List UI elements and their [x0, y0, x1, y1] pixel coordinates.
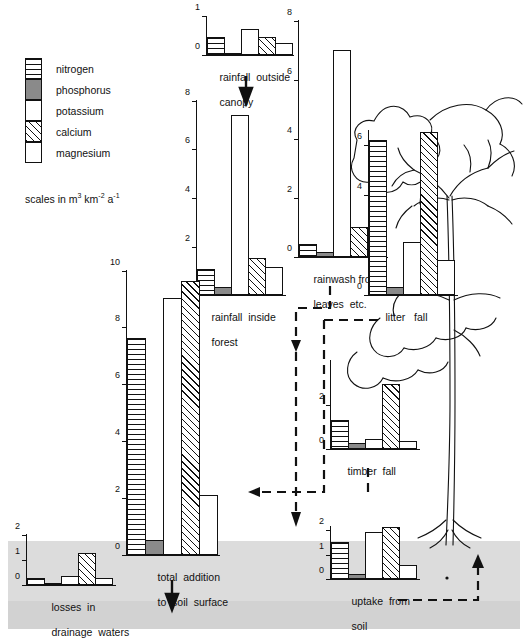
- tick-0: [326, 579, 330, 580]
- ticklabel-4: 4: [357, 181, 362, 191]
- chart-timber-fall: 0 2 timber fall: [330, 358, 422, 450]
- bar-potassium: [61, 576, 79, 585]
- chart-total-addition-to-soil-surface: 0 2 4 6 8 10 total addition to soil surf…: [126, 268, 222, 556]
- bar-calcium: [382, 527, 400, 579]
- bar-magnesium: [399, 441, 417, 449]
- bar-phosphorus: [44, 583, 62, 585]
- bar-calcium: [382, 384, 400, 449]
- tick-6: [122, 384, 126, 385]
- bar-magnesium: [437, 260, 455, 295]
- bar-group: [197, 99, 282, 295]
- bar-magnesium: [265, 267, 283, 295]
- tick-6: [364, 145, 368, 146]
- caption-line-1: losses in: [52, 601, 96, 613]
- chart-caption: timber fall: [330, 452, 396, 490]
- caption-line-2: to soil surface: [158, 596, 229, 608]
- bar-nitrogen: [331, 542, 349, 579]
- plot-area: 0 1 2: [330, 526, 420, 580]
- ticklabel-2: 2: [319, 391, 324, 401]
- bar-calcium: [181, 281, 200, 555]
- caption-line-1: litter fall: [386, 311, 428, 323]
- plot-area: 0 2: [330, 360, 420, 450]
- ticklabel-8: 8: [115, 313, 120, 323]
- bar-nitrogen: [369, 140, 387, 295]
- ticklabel-6: 6: [287, 66, 292, 76]
- tick-2: [326, 530, 330, 531]
- x-axis: [368, 295, 458, 296]
- tick-0: [364, 295, 368, 296]
- caption-line-1: timber fall: [348, 465, 396, 477]
- tick-2: [122, 498, 126, 499]
- bar-calcium: [420, 132, 438, 295]
- tick-4: [294, 139, 298, 140]
- caption-line-2: drainage waters: [52, 626, 130, 638]
- bar-group: [127, 269, 217, 555]
- tick-0: [122, 555, 126, 556]
- caption-line-1: uptake from: [352, 595, 410, 607]
- plot-area: 0 4 6: [368, 130, 458, 296]
- chart-caption: rainwash from leaves etc.: [296, 260, 379, 323]
- ticklabel-2: 2: [319, 516, 324, 526]
- plot-area: 0 1: [206, 16, 294, 56]
- ticklabel-6: 6: [185, 135, 190, 145]
- bar-magnesium: [199, 495, 218, 555]
- ticklabel-0: 0: [15, 571, 20, 581]
- ticklabel-4: 4: [185, 184, 190, 194]
- chart-rainfall-outside-canopy: 0 1 rainfall outside canopy: [206, 14, 296, 56]
- bar-nitrogen: [27, 578, 45, 585]
- bar-nitrogen: [299, 244, 317, 257]
- tick-0: [294, 257, 298, 258]
- chart-caption: uptake from soil: [334, 582, 410, 644]
- bar-potassium: [231, 115, 249, 295]
- bar-phosphorus: [316, 252, 334, 257]
- bar-group: [27, 533, 112, 585]
- bar-phosphorus: [386, 287, 404, 295]
- x-axis: [330, 449, 420, 450]
- ticklabel-0: 0: [357, 281, 362, 291]
- x-axis: [206, 55, 294, 56]
- bar-magnesium: [275, 43, 293, 55]
- ticklabel-4: 4: [115, 427, 120, 437]
- tick-8: [192, 101, 196, 102]
- tick-1: [326, 555, 330, 556]
- bar-potassium: [333, 50, 351, 257]
- ticklabel-2: 2: [15, 521, 20, 531]
- plot-area: 0 2 4 6 8 10: [126, 270, 220, 556]
- x-axis: [126, 555, 220, 556]
- ticklabel-2: 2: [185, 233, 190, 243]
- ticklabel-1: 1: [195, 2, 200, 12]
- tick-0: [22, 585, 26, 586]
- tick-4: [192, 198, 196, 199]
- tick-2: [294, 198, 298, 199]
- ticklabel-8: 8: [287, 7, 292, 17]
- tick-1: [202, 16, 206, 17]
- bar-calcium: [78, 553, 96, 585]
- tick-4: [364, 195, 368, 196]
- chart-uptake-from-soil: 0 1 2 uptake from soil: [330, 524, 422, 580]
- bar-calcium: [248, 258, 266, 295]
- chart-caption: litter fall: [368, 298, 428, 336]
- tick-2: [326, 405, 330, 406]
- ticklabel-0: 0: [319, 565, 324, 575]
- ticklabel-10: 10: [110, 257, 120, 267]
- bar-calcium: [258, 37, 276, 55]
- x-axis: [330, 579, 420, 580]
- chart-caption: losses in drainage waters: [34, 588, 129, 644]
- tick-6: [192, 149, 196, 150]
- bar-phosphorus: [348, 574, 366, 579]
- caption-line-2: leaves etc.: [314, 298, 367, 310]
- bar-phosphorus: [348, 443, 366, 449]
- caption-line-2: soil: [352, 620, 368, 632]
- bar-magnesium: [399, 565, 417, 579]
- bar-potassium: [163, 298, 182, 555]
- bar-group: [207, 15, 292, 55]
- bar-potassium: [241, 29, 259, 55]
- ticklabel-0: 0: [195, 41, 200, 51]
- bar-calcium: [350, 227, 368, 257]
- ticklabel-8: 8: [185, 87, 190, 97]
- bar-nitrogen: [207, 37, 225, 55]
- bar-nitrogen: [127, 338, 146, 555]
- plot-area: 0 2 4 6 8: [196, 100, 286, 296]
- caption-line-1: rainfall outside: [220, 71, 291, 83]
- bar-potassium: [403, 242, 421, 295]
